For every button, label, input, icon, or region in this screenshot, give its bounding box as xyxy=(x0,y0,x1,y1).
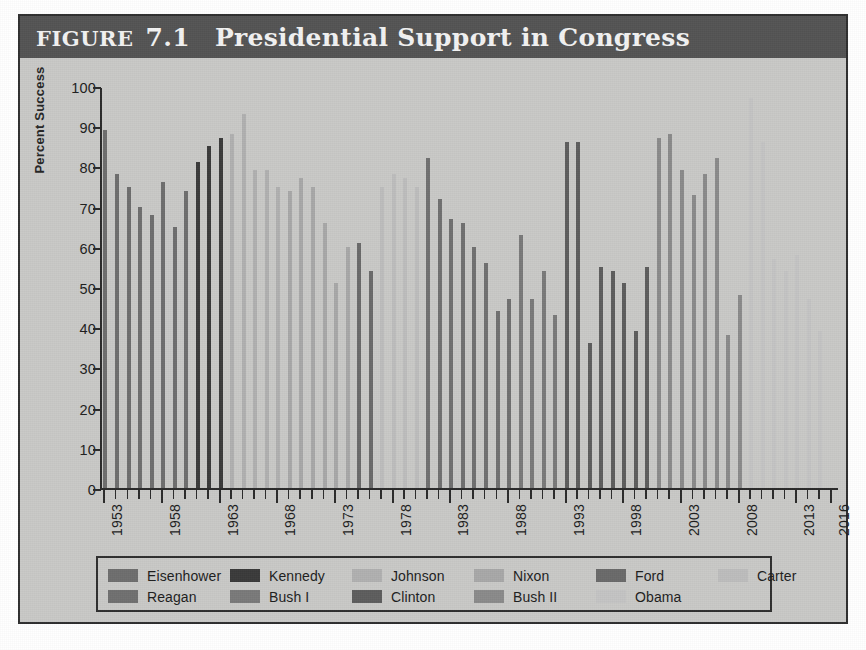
legend-item[interactable]: Carter xyxy=(718,568,840,584)
x-axis-tick xyxy=(357,490,359,499)
bar xyxy=(138,207,142,488)
bar xyxy=(346,247,350,488)
legend-item[interactable]: Clinton xyxy=(352,589,474,605)
x-axis-tick xyxy=(449,490,451,503)
bar xyxy=(253,170,257,488)
x-axis-tick xyxy=(403,490,405,499)
x-axis-tick xyxy=(150,490,152,499)
bar xyxy=(438,199,442,488)
bar xyxy=(818,331,822,488)
x-axis-tick xyxy=(692,490,694,499)
x-axis-tick xyxy=(127,490,129,499)
legend-swatch xyxy=(718,569,748,582)
bar xyxy=(288,191,292,488)
x-axis-tick xyxy=(645,490,647,499)
legend-label: Bush I xyxy=(269,589,309,605)
x-axis-tick xyxy=(738,490,740,503)
x-axis-tick xyxy=(369,490,371,499)
bar xyxy=(392,174,396,488)
bar xyxy=(784,271,788,488)
x-axis-tick xyxy=(323,490,325,499)
bar xyxy=(472,247,476,488)
legend-swatch xyxy=(352,590,382,603)
bar xyxy=(715,158,719,488)
bar xyxy=(645,267,649,488)
x-axis-tick xyxy=(242,490,244,499)
bar xyxy=(265,170,269,488)
x-axis-tick xyxy=(818,490,820,499)
bar xyxy=(127,187,131,489)
bar xyxy=(542,271,546,488)
x-axis-tick xyxy=(576,490,578,499)
legend-label: Reagan xyxy=(147,589,197,605)
legend-swatch xyxy=(596,569,626,582)
x-axis-tick-label: 1953 xyxy=(109,504,125,536)
bar xyxy=(807,299,811,488)
axes-box xyxy=(100,60,838,490)
legend-swatch xyxy=(230,590,260,603)
x-axis-tick-label: 1978 xyxy=(398,504,414,536)
x-axis-tick-label: 1958 xyxy=(167,504,183,536)
legend-label: Clinton xyxy=(391,589,435,605)
bar xyxy=(196,162,200,488)
legend-item[interactable]: Bush II xyxy=(474,589,596,605)
legend-item[interactable]: Johnson xyxy=(352,568,474,584)
legend-item[interactable]: Kennedy xyxy=(230,568,352,584)
legend-item[interactable]: Obama xyxy=(596,589,718,605)
bar xyxy=(692,195,696,488)
x-axis-tick xyxy=(795,490,797,503)
legend-label: Ford xyxy=(635,568,664,584)
bar xyxy=(507,299,511,488)
bar xyxy=(496,311,500,488)
x-axis-tick-label: 1963 xyxy=(225,504,241,536)
bar xyxy=(680,170,684,488)
bar xyxy=(611,271,615,488)
x-axis-tick xyxy=(484,490,486,499)
bar xyxy=(519,235,523,488)
x-axis-tick xyxy=(415,490,417,499)
legend-label: Nixon xyxy=(513,568,549,584)
legend-label: Kennedy xyxy=(269,568,325,584)
x-axis-tick xyxy=(461,490,463,499)
x-axis-tick xyxy=(565,490,567,503)
bar xyxy=(738,295,742,488)
x-axis-tick xyxy=(265,490,267,499)
bar xyxy=(161,182,165,488)
bar xyxy=(276,187,280,489)
x-axis-tick xyxy=(115,490,117,499)
legend-item[interactable]: Ford xyxy=(596,568,718,584)
x-axis-tick-label: 2013 xyxy=(801,504,817,536)
x-axis-tick-label: 1993 xyxy=(571,504,587,536)
bar xyxy=(530,299,534,488)
bar xyxy=(334,283,338,488)
figure-title: Presidential Support in Congress xyxy=(215,23,690,52)
legend-row: ReaganBush IClintonBush IIObama xyxy=(108,586,760,607)
x-axis-tick xyxy=(749,490,751,499)
x-axis-tick xyxy=(392,490,394,503)
x-axis-tick xyxy=(276,490,278,503)
x-axis-tick xyxy=(346,490,348,499)
x-axis-tick xyxy=(611,490,613,499)
x-axis-tick xyxy=(542,490,544,499)
legend-item[interactable]: Nixon xyxy=(474,568,596,584)
bar xyxy=(415,187,419,489)
bar xyxy=(599,267,603,488)
bar xyxy=(749,98,753,488)
bar xyxy=(311,187,315,489)
x-axis-tick xyxy=(761,490,763,499)
legend-swatch xyxy=(474,590,504,603)
bar xyxy=(703,174,707,488)
x-axis-tick xyxy=(553,490,555,499)
legend-item[interactable]: Bush I xyxy=(230,589,352,605)
bar xyxy=(369,271,373,488)
x-axis-tick-label: 2008 xyxy=(744,504,760,536)
x-axis-tick xyxy=(438,490,440,499)
legend-swatch xyxy=(230,569,260,582)
legend-item[interactable]: Eisenhower xyxy=(108,568,230,584)
x-axis-tick xyxy=(830,490,832,503)
x-axis-tick xyxy=(230,490,232,499)
legend-swatch xyxy=(352,569,382,582)
bar xyxy=(242,114,246,488)
x-axis-tick xyxy=(807,490,809,499)
legend-item[interactable]: Reagan xyxy=(108,589,230,605)
